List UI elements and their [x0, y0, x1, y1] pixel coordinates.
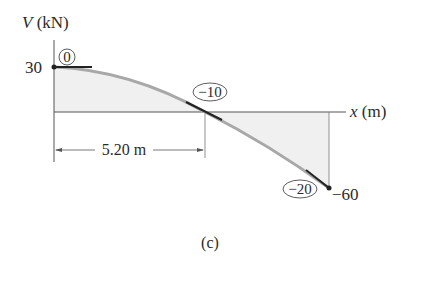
shear-diagram: V (kN) x (m) 30 −60 0 −10 −20 5.20 m (c)	[0, 0, 432, 281]
x-axis-label: x (m)	[349, 102, 386, 121]
arrow-right-icon	[197, 148, 204, 152]
start-point	[52, 65, 57, 70]
v-axis-label: V (kN)	[22, 13, 69, 32]
positive-area-fill	[54, 67, 205, 112]
start-value-label: 30	[25, 58, 42, 77]
dimension-label: 5.20 m	[102, 141, 147, 158]
arrow-left-icon	[55, 148, 62, 152]
figure-caption: (c)	[201, 234, 219, 252]
slope-label-0: 0	[63, 49, 71, 65]
slope-label-minus20: −20	[288, 181, 311, 197]
end-value-label: −60	[332, 185, 359, 204]
slope-label-minus10: −10	[198, 84, 221, 100]
end-point	[327, 186, 332, 191]
